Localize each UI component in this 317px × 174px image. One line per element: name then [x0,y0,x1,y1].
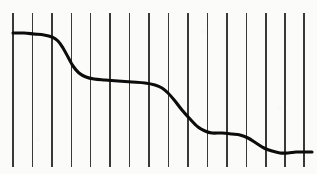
gridlines-group [13,13,304,167]
data-series-group [13,33,312,153]
figure-root [0,0,317,174]
data-curve-curve [13,33,312,153]
chart-canvas [0,0,317,174]
